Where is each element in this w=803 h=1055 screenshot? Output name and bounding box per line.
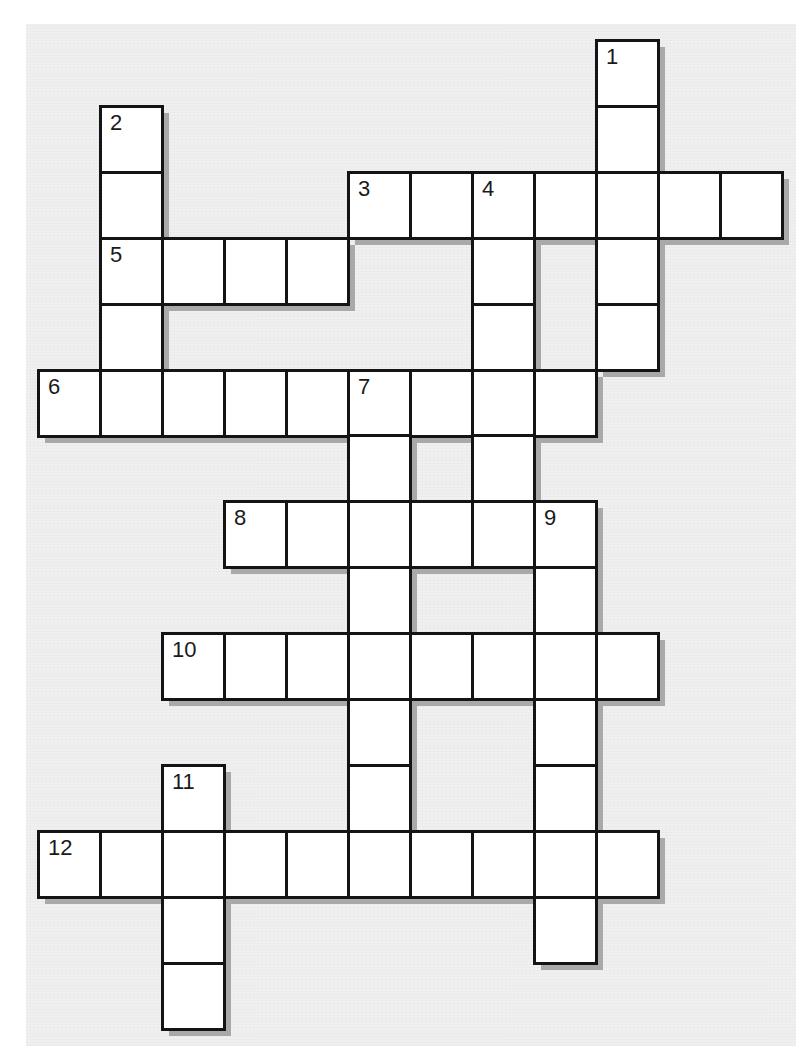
- crossword-cell[interactable]: [595, 171, 660, 240]
- crossword-cell[interactable]: [347, 830, 412, 899]
- crossword-cell[interactable]: [161, 237, 226, 306]
- clue-number: 5: [110, 244, 122, 266]
- crossword-cell[interactable]: [719, 171, 784, 240]
- crossword-cell[interactable]: 6: [37, 369, 102, 438]
- clue-number: 4: [482, 178, 494, 200]
- crossword-cell[interactable]: [347, 500, 412, 569]
- crossword-cell[interactable]: [285, 237, 350, 306]
- crossword-cell[interactable]: [409, 632, 474, 701]
- crossword-cell[interactable]: [471, 500, 536, 569]
- crossword-cell[interactable]: [533, 698, 598, 767]
- crossword-cell[interactable]: [161, 896, 226, 965]
- crossword-cell[interactable]: [161, 830, 226, 899]
- crossword-cell[interactable]: [99, 171, 164, 240]
- crossword-cell[interactable]: [409, 369, 474, 438]
- crossword-cell[interactable]: 12: [37, 830, 102, 899]
- crossword-cell[interactable]: 3: [347, 171, 412, 240]
- crossword-cell[interactable]: [595, 237, 660, 306]
- crossword-cell[interactable]: [223, 830, 288, 899]
- clue-number: 11: [172, 771, 195, 793]
- crossword-cell[interactable]: [347, 698, 412, 767]
- clue-number: 10: [172, 639, 196, 661]
- crossword-cell[interactable]: 10: [161, 632, 226, 701]
- crossword-cell[interactable]: [285, 830, 350, 899]
- crossword-cell[interactable]: [99, 830, 164, 899]
- crossword-cell[interactable]: [161, 369, 226, 438]
- crossword-cell[interactable]: [471, 434, 536, 503]
- clue-number: 1: [606, 46, 618, 68]
- crossword-cell[interactable]: [347, 566, 412, 635]
- clue-number: 2: [110, 112, 122, 134]
- crossword-cell[interactable]: 2: [99, 105, 164, 174]
- crossword-cell[interactable]: [347, 434, 412, 503]
- crossword-cell[interactable]: [533, 830, 598, 899]
- clue-number: 3: [358, 178, 370, 200]
- crossword-cell[interactable]: [99, 369, 164, 438]
- crossword-cell[interactable]: [285, 632, 350, 701]
- crossword-grid: 125346789101112: [0, 0, 803, 1055]
- crossword-cell[interactable]: [347, 764, 412, 833]
- crossword-cell[interactable]: [471, 303, 536, 372]
- crossword-cell[interactable]: 8: [223, 500, 288, 569]
- crossword-cell[interactable]: [657, 171, 722, 240]
- crossword-cell[interactable]: [471, 632, 536, 701]
- crossword-cell[interactable]: [347, 632, 412, 701]
- crossword-cell[interactable]: [471, 830, 536, 899]
- crossword-cell[interactable]: [595, 303, 660, 372]
- crossword-cell[interactable]: [223, 237, 288, 306]
- clue-number: 6: [48, 376, 60, 398]
- crossword-cell[interactable]: [99, 303, 164, 372]
- crossword-cell[interactable]: [533, 896, 598, 965]
- crossword-cell[interactable]: [533, 764, 598, 833]
- crossword-cell[interactable]: [471, 369, 536, 438]
- crossword-cell[interactable]: [409, 171, 474, 240]
- crossword-cell[interactable]: [223, 632, 288, 701]
- clue-number: 8: [234, 507, 246, 529]
- crossword-cell[interactable]: [533, 171, 598, 240]
- crossword-cell[interactable]: [595, 632, 660, 701]
- crossword-cell[interactable]: [471, 237, 536, 306]
- crossword-cell[interactable]: [161, 962, 226, 1031]
- crossword-cell[interactable]: [595, 830, 660, 899]
- crossword-cell[interactable]: 1: [595, 39, 660, 108]
- clue-number: 12: [48, 837, 72, 859]
- crossword-cell[interactable]: [533, 369, 598, 438]
- crossword-cell[interactable]: [223, 369, 288, 438]
- crossword-cell[interactable]: [285, 369, 350, 438]
- crossword-cell[interactable]: [533, 632, 598, 701]
- crossword-cell[interactable]: 11: [161, 764, 226, 833]
- crossword-cell[interactable]: 4: [471, 171, 536, 240]
- clue-number: 9: [544, 507, 556, 529]
- crossword-cell[interactable]: 5: [99, 237, 164, 306]
- crossword-cell[interactable]: [595, 105, 660, 174]
- clue-number: 7: [358, 376, 370, 398]
- crossword-cell[interactable]: 7: [347, 369, 412, 438]
- crossword-cell[interactable]: 9: [533, 500, 598, 569]
- crossword-cell[interactable]: [285, 500, 350, 569]
- crossword-cell[interactable]: [533, 566, 598, 635]
- crossword-cell[interactable]: [409, 500, 474, 569]
- crossword-cell[interactable]: [409, 830, 474, 899]
